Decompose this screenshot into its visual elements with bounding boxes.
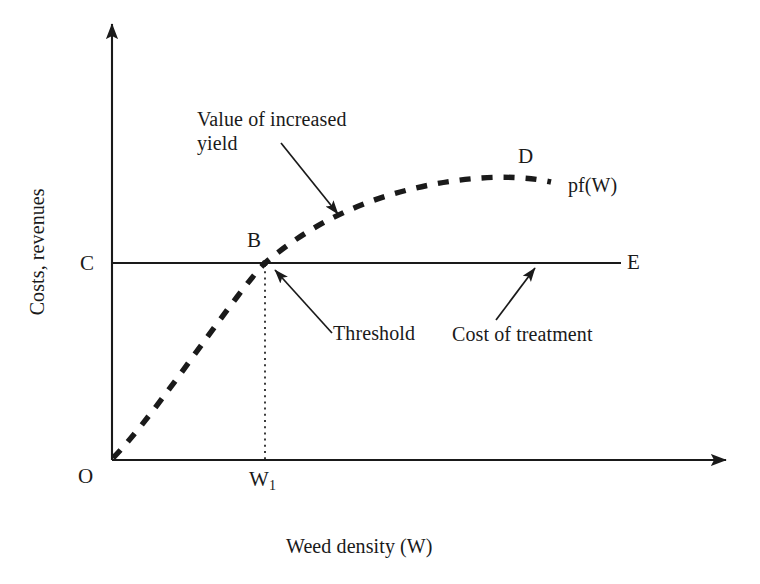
x-axis-title: Weed density (W) [286, 535, 433, 559]
pf-w-curve-label: pf(W) [568, 174, 617, 198]
curve-end-label: D [518, 144, 533, 169]
intersection-label: B [247, 228, 261, 253]
threshold-leader [275, 270, 332, 333]
threshold-annotation: Threshold [333, 322, 415, 346]
cost-of-treatment-annotation: Cost of treatment [452, 323, 593, 347]
value-of-increased-yield-annotation: Value of increasedyield [197, 108, 347, 155]
weed-density-threshold-figure: O C B D E W1 pf(W) Value of increasedyie… [0, 0, 760, 584]
pf-w-curve [113, 177, 551, 458]
threshold-x-label: W1 [249, 467, 276, 495]
threshold-x-subscript: 1 [269, 478, 276, 493]
intersection-point-b [262, 260, 268, 266]
cost-intercept-label: C [80, 251, 94, 276]
chart-canvas [0, 0, 760, 584]
cost-end-label: E [627, 250, 640, 275]
cost-of-treatment-leader [496, 268, 535, 320]
threshold-x-main: W [249, 467, 269, 491]
value-annotation-line-2: yield [197, 132, 238, 154]
value-annotation-line-1: Value of increased [197, 108, 347, 130]
y-axis-title: Costs, revenues [26, 152, 50, 352]
origin-label: O [78, 464, 93, 489]
